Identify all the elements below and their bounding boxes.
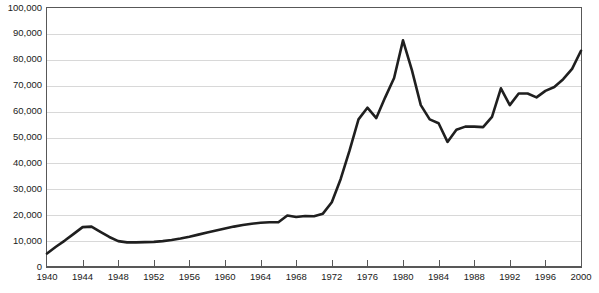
x-tick-label: 1980 xyxy=(392,271,413,282)
y-tick-label: 70,000 xyxy=(13,79,42,90)
x-tick-label: 1976 xyxy=(357,271,378,282)
y-tick-label: 0 xyxy=(37,261,42,272)
y-tick-label: 40,000 xyxy=(13,157,42,168)
x-tick-label: 1984 xyxy=(428,271,449,282)
y-tick-label: 30,000 xyxy=(13,183,42,194)
y-tick-label: 50,000 xyxy=(13,131,42,142)
y-tick-label: 20,000 xyxy=(13,209,42,220)
line-chart: 010,00020,00030,00040,00050,00060,00070,… xyxy=(0,0,599,293)
x-tick-label: 1940 xyxy=(36,271,57,282)
x-axis-tick-labels: 1940194419481952195619601964196819721976… xyxy=(36,271,591,282)
y-tick-label: 10,000 xyxy=(13,235,42,246)
y-tick-label: 100,000 xyxy=(8,2,42,13)
x-tick-label: 1988 xyxy=(464,271,485,282)
gridlines-group xyxy=(47,35,581,242)
x-tick-label: 1964 xyxy=(250,271,271,282)
x-axis-tick-marks xyxy=(84,260,546,267)
x-tick-label: 2000 xyxy=(570,271,591,282)
x-tick-label: 1972 xyxy=(321,271,342,282)
plot-frame xyxy=(47,8,582,268)
y-tick-label: 60,000 xyxy=(13,105,42,116)
x-tick-label: 1944 xyxy=(72,271,93,282)
x-tick-label: 1968 xyxy=(286,271,307,282)
y-tick-label: 80,000 xyxy=(13,53,42,64)
x-tick-label: 1960 xyxy=(214,271,235,282)
x-tick-label: 1992 xyxy=(499,271,520,282)
data-series-line xyxy=(47,40,581,253)
x-tick-label: 1948 xyxy=(108,271,129,282)
y-axis-tick-labels: 010,00020,00030,00040,00050,00060,00070,… xyxy=(8,2,42,272)
y-tick-label: 90,000 xyxy=(13,27,42,38)
x-tick-label: 1996 xyxy=(535,271,556,282)
x-tick-label: 1952 xyxy=(143,271,164,282)
x-tick-label: 1956 xyxy=(179,271,200,282)
chart-canvas: 010,00020,00030,00040,00050,00060,00070,… xyxy=(0,0,599,293)
